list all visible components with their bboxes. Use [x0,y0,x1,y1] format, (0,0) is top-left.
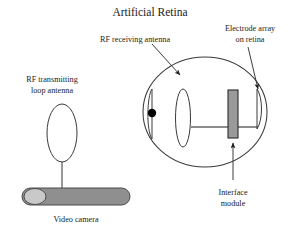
video-camera-lens [24,189,46,205]
label-rf-receiving-antenna: RF receiving antenna [100,35,170,44]
label-interface-module-line2: module [221,199,246,208]
label-electrode-array-line1: Electrode array [225,24,276,33]
label-interface-module-line1: Interface [218,188,247,197]
figure-title: Artificial Retina [112,6,187,18]
label-electrode-array-line2: on retina [236,35,265,44]
diagram-canvas: Artificial Retina [0,0,300,232]
label-rf-transmitting-line1: RF transmitting [26,75,78,84]
pupil-dot [148,109,156,117]
label-rf-transmitting-line2: loop antenna [31,86,73,95]
artificial-retina-figure: Artificial Retina [0,0,300,232]
interface-module-block [228,90,238,138]
label-video-camera: Video camera [53,215,99,224]
